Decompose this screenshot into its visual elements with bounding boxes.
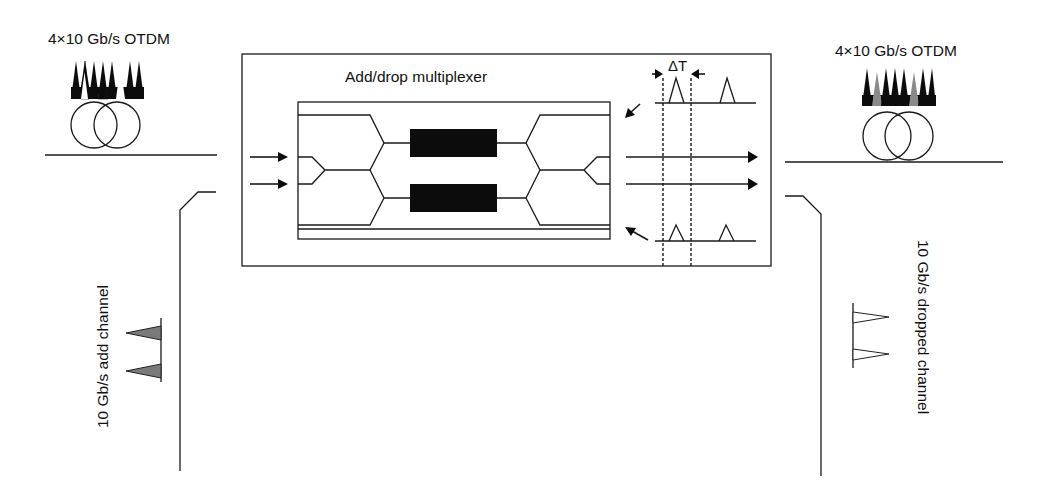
add-channel-label: 10 Gb/s add channel xyxy=(94,285,111,428)
add-pointer-arrow-icon xyxy=(625,227,648,240)
delta-t-label: ΔT xyxy=(668,57,687,74)
multiplexer-box: Add/drop multiplexer xyxy=(242,54,771,266)
phase-modulator-bottom xyxy=(410,184,497,212)
top-pulse-trace-icon xyxy=(655,78,756,103)
output-signal-label: 4×10 Gb/s OTDM xyxy=(835,42,957,59)
add-drop-multiplexer-diagram: 4×10 Gb/s OTDM xyxy=(0,0,1055,501)
drop-channel-pulses-icon xyxy=(853,303,889,368)
right-coupler-waveguides xyxy=(497,115,610,225)
output-signal-group: 4×10 Gb/s OTDM 10 Gb/s dropped cha xyxy=(785,42,1003,476)
drop-channel-fiber-line xyxy=(785,196,821,476)
input-signal-group: 4×10 Gb/s OTDM xyxy=(45,30,217,471)
add-channel-pulses-icon xyxy=(126,318,161,382)
multiplexer-title: Add/drop multiplexer xyxy=(345,68,487,85)
output-fiber-coil-icon xyxy=(863,112,933,160)
drop-pointer-arrow-icon xyxy=(625,104,640,118)
left-coupler-waveguides xyxy=(298,115,410,225)
add-channel-fiber-line xyxy=(180,192,216,471)
output-arrows-icon xyxy=(626,151,758,190)
bottom-pulse-trace-icon xyxy=(655,225,756,241)
switching-window: ΔT xyxy=(652,57,705,266)
input-arrows-icon xyxy=(250,152,288,189)
input-signal-label: 4×10 Gb/s OTDM xyxy=(48,30,170,47)
input-pulse-train-icon xyxy=(71,61,144,99)
phase-modulator-top xyxy=(410,129,497,157)
input-fiber-coil-icon xyxy=(71,102,140,148)
drop-channel-label: 10 Gb/s dropped channel xyxy=(915,240,932,414)
output-pulse-train-icon xyxy=(862,68,936,106)
